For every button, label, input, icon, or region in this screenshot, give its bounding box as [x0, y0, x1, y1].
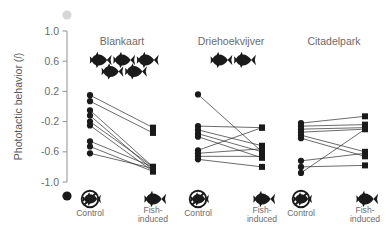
fish-icon	[113, 52, 130, 68]
pair-line	[198, 149, 262, 154]
panel-title: Driehoekvijver	[198, 35, 265, 47]
treatment-points	[362, 113, 368, 168]
pair-line	[90, 141, 153, 167]
phototactic-behavior-figure: 1.00.60.2-0.2-0.6-1.0Phototactic behavio…	[0, 0, 386, 236]
data-point-treatment	[362, 113, 368, 119]
pair-line	[90, 125, 153, 171]
fish-icon-tail	[270, 194, 275, 204]
fish-icon	[234, 52, 251, 68]
data-point-control	[298, 158, 304, 164]
pair-line	[301, 129, 365, 132]
data-point-control	[87, 122, 93, 128]
fish-icon	[102, 63, 119, 79]
x-tick-label-treatment-line2: induced	[138, 214, 168, 224]
data-point-treatment	[362, 150, 368, 156]
x-tick-label-treatment-line2: induced	[247, 214, 277, 224]
treatment-points	[150, 125, 156, 175]
data-point-control	[87, 112, 93, 118]
treatment-points	[259, 125, 265, 170]
pair-line	[198, 159, 262, 167]
x-tick-label-control: Control	[184, 208, 212, 218]
x-tick-label-control: Control	[76, 208, 104, 218]
data-point-control	[298, 164, 304, 170]
pair-line	[301, 116, 365, 123]
fish-icon-tail	[373, 194, 378, 204]
y-axis-tick-label: -0.2	[41, 115, 59, 127]
data-point-control	[87, 92, 93, 98]
panel-title: Blankaart	[100, 35, 144, 47]
y-axis-tick-label: 1.0	[44, 25, 59, 37]
pair-lines	[90, 95, 153, 171]
data-point-treatment	[259, 146, 265, 152]
pair-lines	[198, 94, 262, 166]
pair-line	[90, 116, 153, 170]
fish-icon	[125, 63, 142, 79]
fish-icon-tail	[251, 55, 256, 65]
data-point-treatment	[150, 130, 156, 136]
fish-icon	[211, 52, 228, 68]
data-point-control	[87, 107, 93, 113]
panel-citadelpark: CitadelparkControlFish-induced	[287, 35, 380, 224]
pair-line	[198, 128, 262, 151]
pair-line	[198, 126, 262, 128]
data-point-control	[195, 134, 201, 140]
fish-icon-tail	[154, 55, 159, 65]
data-point-treatment	[259, 153, 265, 159]
y-axis-tick-label: -1.0	[41, 176, 59, 188]
fish-shoal-icon	[90, 52, 159, 80]
pair-line	[301, 128, 365, 130]
control-points	[195, 91, 201, 162]
control-points	[298, 120, 304, 176]
pair-line	[198, 137, 262, 158]
no-fish-icon	[82, 191, 101, 208]
pair-lines	[301, 116, 365, 173]
data-point-control	[298, 170, 304, 176]
fish-icon	[137, 52, 154, 68]
light-circle-icon	[62, 10, 71, 19]
data-point-treatment	[362, 126, 368, 132]
y-axis-tick-label: 0.2	[44, 85, 59, 97]
pair-line	[90, 95, 153, 127]
y-axis-title: Phototactic behavior (l)	[12, 53, 24, 160]
pair-line	[90, 153, 153, 168]
fish-shoal-icon	[211, 52, 256, 68]
data-point-control	[87, 150, 93, 156]
dark-circle-icon	[62, 191, 71, 200]
pair-line	[198, 130, 262, 146]
y-axis-tick-label: 0.6	[44, 55, 59, 67]
pair-line	[301, 125, 365, 127]
x-axis-labels: ControlFish-induced	[287, 191, 380, 224]
data-point-treatment	[362, 162, 368, 168]
data-point-control	[195, 91, 201, 97]
panel-driehoekvijver: DriehoekvijverControlFish-induced	[184, 35, 277, 224]
data-point-treatment	[150, 125, 156, 131]
panel-title: Citadelpark	[307, 35, 361, 47]
data-point-treatment	[259, 125, 265, 131]
x-tick-label-control: Control	[287, 208, 315, 218]
panel-blankaart: BlankaartControlFish-induced	[76, 35, 168, 224]
x-tick-label-treatment-line2: induced	[350, 214, 380, 224]
svg-text:Phototactic behavior (l): Phototactic behavior (l)	[12, 53, 24, 160]
data-point-control	[298, 135, 304, 141]
data-point-control	[87, 98, 93, 104]
pair-line	[301, 153, 365, 161]
pair-line	[90, 110, 153, 167]
x-axis-labels: ControlFish-induced	[184, 191, 277, 224]
fish-icon-tail	[119, 66, 124, 76]
control-points	[87, 92, 93, 156]
no-fish-icon	[190, 191, 209, 208]
data-point-control	[87, 138, 93, 144]
data-point-control	[195, 156, 201, 162]
no-fish-icon	[293, 191, 312, 208]
pair-line	[301, 138, 365, 156]
data-point-control	[87, 143, 93, 149]
fish-icon-tail	[228, 55, 233, 65]
x-axis-labels: ControlFish-induced	[76, 191, 168, 224]
pair-line	[90, 147, 153, 172]
y-axis-tick-label: -0.6	[41, 145, 59, 157]
pair-line	[301, 135, 365, 152]
y-axis: 1.00.60.2-0.2-0.6-1.0	[41, 10, 72, 200]
data-point-treatment	[150, 165, 156, 171]
fish-icon-tail	[161, 194, 166, 204]
data-point-treatment	[259, 164, 265, 170]
